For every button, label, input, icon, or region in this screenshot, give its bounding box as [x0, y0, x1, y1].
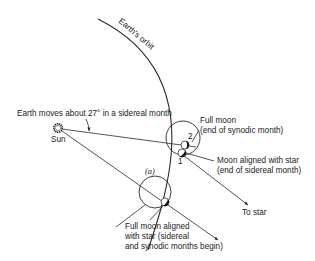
full-moon-end-label: Full moon — [200, 116, 236, 125]
earth-orbit-curve — [98, 19, 172, 250]
full-moon-end-pointer — [192, 130, 199, 142]
motion-pointer-line — [86, 119, 89, 131]
sun-icon — [54, 124, 62, 132]
moon-position-2-icon — [181, 141, 189, 149]
start-label-line1: Full moon aligned — [125, 222, 190, 231]
sun-line-upper — [62, 129, 196, 147]
position-a-label: (a) — [145, 166, 155, 176]
moon-aligned-end-label: Moon aligned with star — [217, 156, 299, 165]
sidereal-synodic-diagram: Earth's orbit Sun Earth moves about 27° … — [0, 0, 315, 261]
start-label-line3: and synodic months begin) — [125, 242, 223, 251]
earth-motion-label: Earth moves about 27° in a sidereal mont… — [17, 109, 172, 118]
start-label-line2: with star (sidereal — [124, 232, 189, 241]
moon-aligned-end-sublabel: (end of sidereal month) — [217, 166, 301, 175]
to-star-label: To star — [242, 208, 267, 217]
sun-label: Sun — [51, 135, 66, 144]
moon-label-1: 1 — [178, 157, 183, 166]
moon-aligned-end-pointer — [186, 153, 214, 161]
moon-label-2: 2 — [188, 132, 193, 141]
full-moon-end-sublabel: (end of synodic month) — [200, 126, 284, 135]
